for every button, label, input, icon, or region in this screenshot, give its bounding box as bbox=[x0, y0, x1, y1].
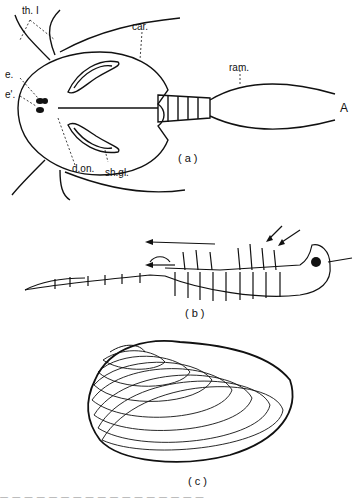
label-shgl: sh.gl. bbox=[105, 168, 129, 178]
panel-b-arrowheads bbox=[145, 235, 321, 268]
label-e: e. bbox=[5, 70, 13, 80]
panel-b-drawing bbox=[25, 226, 352, 301]
figure-drawing bbox=[0, 0, 362, 501]
caption-c: (c) bbox=[188, 475, 210, 487]
panel-c-drawing bbox=[88, 341, 292, 462]
label-A: A bbox=[340, 102, 348, 114]
label-don: d.on. bbox=[72, 164, 94, 174]
caption-a: (a) bbox=[178, 152, 200, 164]
eyes bbox=[36, 98, 48, 113]
label-e-prime: e'. bbox=[5, 90, 15, 100]
caption-b: (b) bbox=[185, 307, 207, 319]
label-th1: th. I bbox=[22, 6, 39, 16]
cropped-caption-text: — — — — — — — — — — — — — — — — — bbox=[0, 492, 362, 501]
label-car: car. bbox=[132, 22, 148, 32]
label-ram: ram. bbox=[229, 63, 249, 73]
panel-a-drawing bbox=[12, 10, 335, 200]
